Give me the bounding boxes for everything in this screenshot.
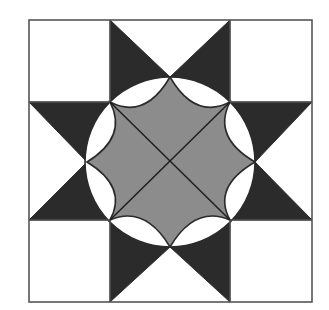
quilt-star-figure: [0, 0, 329, 310]
